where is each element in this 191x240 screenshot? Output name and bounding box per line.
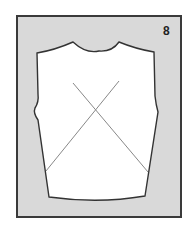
- step-number: 8: [163, 24, 170, 38]
- bodice-piece: [34, 42, 158, 200]
